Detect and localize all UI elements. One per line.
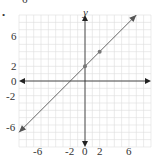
coordinate-plane bbox=[0, 0, 154, 157]
y-axis-label: y bbox=[83, 7, 88, 18]
y-tick-2: 2 bbox=[11, 61, 17, 72]
x-tick-neg6: -6 bbox=[33, 146, 42, 157]
y-tick-neg6: -6 bbox=[6, 122, 15, 133]
y-tick-0: 0 bbox=[11, 76, 17, 87]
x-tick-neg2: -2 bbox=[65, 146, 74, 157]
x-tick-2: 2 bbox=[97, 146, 103, 157]
x-tick-6: 6 bbox=[126, 146, 132, 157]
x-tick-0: 0 bbox=[82, 146, 88, 157]
y-tick-6: 6 bbox=[11, 31, 17, 42]
y-tick-neg2: -2 bbox=[6, 91, 15, 102]
